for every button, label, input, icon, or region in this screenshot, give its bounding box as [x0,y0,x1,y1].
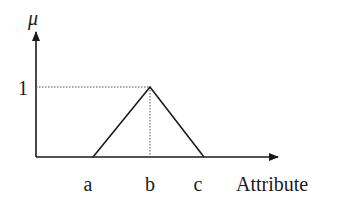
x-axis-label: Attribute [236,173,308,195]
x-tick-label-c: c [194,173,203,195]
x-tick-label-b: b [145,173,155,195]
membership-diagram: μ 1 a b c Attribute [0,0,349,200]
x-tick-label-a: a [84,173,93,195]
y-tick-label-1: 1 [18,77,28,99]
membership-triangle [93,87,204,157]
y-axis-label: μ [27,7,38,30]
